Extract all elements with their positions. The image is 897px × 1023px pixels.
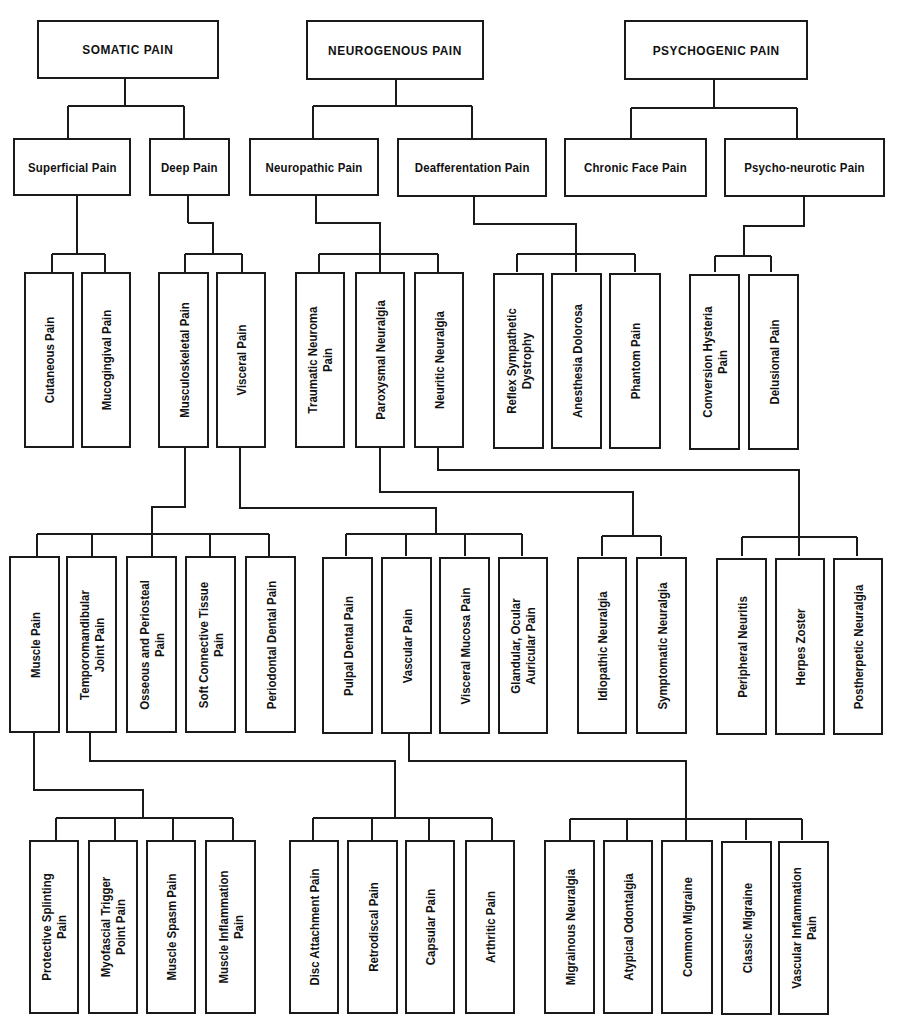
node-migrainous-neuralgia: Migrainous Neuralgia bbox=[544, 840, 595, 1014]
node-periodontal-dental-pain: Periodontal Dental Pain bbox=[245, 556, 296, 733]
node-psycho-neurotic-pain: Psycho-neurotic Pain bbox=[724, 138, 885, 197]
node-label: Protective Splinting Pain bbox=[39, 873, 69, 980]
node-disc-attachment-pain: Disc Attachment Pain bbox=[289, 840, 339, 1014]
node-label: SOMATIC PAIN bbox=[82, 42, 173, 57]
node-label: Muscle Inflammation Pain bbox=[216, 870, 246, 983]
node-label: Visceral Pain bbox=[234, 324, 249, 395]
node-paroxysmal-neuralgia: Paroxysmal Neuralgia bbox=[355, 272, 405, 448]
node-deafferentation-pain: Deafferentation Pain bbox=[397, 138, 547, 197]
node-label: Neuropathic Pain bbox=[266, 160, 363, 175]
node-label: Vascular Inflammation Pain bbox=[789, 867, 819, 988]
node-somatic-pain: SOMATIC PAIN bbox=[37, 20, 219, 79]
node-symptomatic-neuralgia: Symptomatic Neuralgia bbox=[636, 557, 687, 734]
node-label: Delusional Pain bbox=[766, 319, 781, 404]
node-delusional-pain: Delusional Pain bbox=[748, 274, 799, 450]
node-label: Muscle Spasm Pain bbox=[164, 874, 179, 981]
node-neuropathic-pain: Neuropathic Pain bbox=[249, 138, 379, 196]
node-herpes-zoster: Herpes Zoster bbox=[775, 558, 825, 735]
node-label: Conversion Hysteria Pain bbox=[700, 306, 730, 417]
node-label: Disc Attachment Pain bbox=[307, 868, 322, 985]
node-reflex-sympathetic-dystrophy: Reflex Sympathetic Dystrophy bbox=[493, 273, 544, 449]
node-label: Migrainous Neuralgia bbox=[562, 869, 577, 985]
node-muscle-pain: Muscle Pain bbox=[9, 556, 60, 733]
node-label: Herpes Zoster bbox=[793, 608, 808, 685]
node-conversion-hysteria-pain: Conversion Hysteria Pain bbox=[689, 274, 740, 450]
node-common-migraine: Common Migraine bbox=[661, 840, 713, 1014]
node-mucogingival-pain: Mucogingival Pain bbox=[81, 272, 131, 448]
node-deep-pain: Deep Pain bbox=[149, 138, 230, 196]
node-label: Postherpetic Neuralgia bbox=[851, 584, 866, 709]
node-label: Retrodiscal Pain bbox=[365, 882, 380, 972]
node-label: Reflex Sympathetic Dystrophy bbox=[504, 308, 534, 414]
node-label: Common Migraine bbox=[680, 877, 695, 977]
node-visceral-pain: Visceral Pain bbox=[216, 272, 266, 448]
node-label: Mucogingival Pain bbox=[99, 310, 114, 410]
node-label: Deafferentation Pain bbox=[415, 160, 530, 175]
node-musculoskeletal-pain: Musculoskeletal Pain bbox=[158, 272, 209, 448]
node-peripheral-neuritis: Peripheral Neuritis bbox=[716, 558, 767, 735]
node-phantom-pain: Phantom Pain bbox=[609, 273, 661, 449]
node-label: Traumatic Neuroma Pain bbox=[305, 307, 335, 414]
node-label: NEUROGENOUS PAIN bbox=[328, 43, 462, 58]
node-label: Visceral Mucosa Pain bbox=[457, 587, 472, 704]
node-label: Neuritic Neuralgia bbox=[432, 311, 447, 409]
node-label: Muscle Pain bbox=[27, 611, 42, 677]
node-label: Deep Pain bbox=[161, 160, 218, 175]
node-label: Temporomandibular Joint Pain bbox=[77, 590, 107, 700]
node-cutaneous-pain: Cutaneous Pain bbox=[24, 272, 74, 448]
node-protective-splinting-pain: Protective Splinting Pain bbox=[29, 840, 79, 1014]
node-vascular-pain: Vascular Pain bbox=[381, 557, 432, 734]
node-retrodiscal-pain: Retrodiscal Pain bbox=[347, 840, 398, 1014]
node-label: Pulpal Dental Pain bbox=[340, 596, 355, 696]
node-neuritic-neuralgia: Neuritic Neuralgia bbox=[414, 272, 464, 448]
node-label: Superficial Pain bbox=[28, 160, 117, 175]
node-label: Musculoskeletal Pain bbox=[176, 302, 191, 418]
node-vascular-inflammation-pain: Vascular Inflammation Pain bbox=[778, 841, 829, 1015]
node-label: Cutaneous Pain bbox=[42, 317, 57, 403]
node-label: Atypical Odontalgia bbox=[621, 873, 636, 980]
node-traumatic-neuroma-pain: Traumatic Neuroma Pain bbox=[295, 272, 345, 448]
node-temporomandibular-joint-pain: Temporomandibular Joint Pain bbox=[66, 556, 117, 733]
node-label: Myofascial Trigger Point Pain bbox=[98, 877, 128, 977]
node-capsular-pain: Capsular Pain bbox=[405, 840, 455, 1014]
node-myofascial-trigger-point-pain: Myofascial Trigger Point Pain bbox=[88, 840, 138, 1014]
node-label: Symptomatic Neuralgia bbox=[654, 582, 669, 709]
node-label: Chronic Face Pain bbox=[584, 160, 687, 175]
node-muscle-inflammation-pain: Muscle Inflammation Pain bbox=[205, 840, 256, 1014]
node-label: Paroxysmal Neuralgia bbox=[373, 300, 388, 420]
node-label: Idiopathic Neuralgia bbox=[595, 591, 610, 700]
node-label: Periodontal Dental Pain bbox=[263, 580, 278, 708]
node-label: Classic Migraine bbox=[739, 883, 754, 973]
node-muscle-spasm-pain: Muscle Spasm Pain bbox=[146, 840, 196, 1014]
node-label: Soft Connective Tissue Pain bbox=[196, 581, 226, 707]
node-atypical-odontalgia: Atypical Odontalgia bbox=[603, 840, 653, 1014]
node-label: Osseous and Periosteal Pain bbox=[137, 580, 167, 710]
node-postherpetic-neuralgia: Postherpetic Neuralgia bbox=[833, 558, 883, 735]
node-pulpal-dental-pain: Pulpal Dental Pain bbox=[322, 557, 373, 734]
node-osseous-periosteal-pain: Osseous and Periosteal Pain bbox=[126, 556, 177, 733]
node-neurogenous-pain: NEUROGENOUS PAIN bbox=[306, 20, 484, 80]
node-chronic-face-pain: Chronic Face Pain bbox=[564, 138, 707, 197]
pain-classification-diagram: SOMATIC PAIN NEUROGENOUS PAIN PSYCHOGENI… bbox=[0, 0, 897, 1023]
node-label: PSYCHOGENIC PAIN bbox=[652, 43, 779, 58]
node-visceral-mucosa-pain: Visceral Mucosa Pain bbox=[439, 557, 490, 734]
node-arthritic-pain: Arthritic Pain bbox=[465, 840, 515, 1014]
node-label: Psycho-neurotic Pain bbox=[744, 160, 864, 175]
node-label: Vascular Pain bbox=[399, 608, 414, 682]
node-label: Arthritic Pain bbox=[483, 891, 498, 963]
node-soft-connective-tissue-pain: Soft Connective Tissue Pain bbox=[185, 556, 236, 733]
node-superficial-pain: Superficial Pain bbox=[13, 138, 131, 196]
node-label: Phantom Pain bbox=[628, 323, 643, 399]
node-psychogenic-pain: PSYCHOGENIC PAIN bbox=[624, 20, 808, 80]
node-glandular-ocular-auricular-pain: Glandular, Ocular Auricular Pain bbox=[498, 557, 548, 734]
node-idiopathic-neuralgia: Idiopathic Neuralgia bbox=[577, 557, 627, 734]
node-label: Peripheral Neuritis bbox=[734, 596, 749, 698]
node-classic-migraine: Classic Migraine bbox=[721, 841, 772, 1015]
node-label: Glandular, Ocular Auricular Pain bbox=[508, 598, 538, 693]
node-label: Anesthesia Dolorosa bbox=[569, 304, 584, 418]
node-anesthesia-dolorosa: Anesthesia Dolorosa bbox=[551, 273, 602, 449]
node-label: Capsular Pain bbox=[423, 889, 438, 965]
